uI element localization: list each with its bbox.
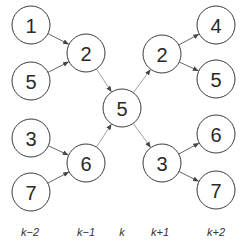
- nodes-group: 1537265234567: [12, 6, 235, 211]
- edge-d1-to-e1: [179, 34, 199, 45]
- column-label-k-minus-1: k−1: [77, 226, 95, 238]
- node-e4: 7: [197, 171, 235, 209]
- node-a4: 7: [12, 173, 50, 211]
- node-b2: 6: [67, 144, 105, 182]
- node-a2: 5: [12, 62, 50, 100]
- edge-c-to-d1: [133, 70, 150, 93]
- edge-a4-to-b2: [48, 172, 69, 183]
- node-label: 7: [210, 180, 221, 202]
- node-d1: 2: [143, 35, 181, 73]
- column-label-k-plus-1: k+1: [151, 226, 169, 238]
- edge-a1-to-b1: [48, 34, 69, 45]
- graph-svg: 1537265234567: [0, 0, 244, 244]
- node-label: 2: [80, 43, 91, 65]
- edge-c-to-d2: [133, 123, 150, 147]
- node-e1: 4: [197, 6, 235, 44]
- node-label: 5: [25, 71, 36, 93]
- node-label: 6: [210, 124, 221, 146]
- column-label-k: k: [119, 226, 125, 238]
- column-label-k-minus-2: k−2: [21, 226, 39, 238]
- edge-d2-to-e4: [179, 171, 199, 181]
- diagram-canvas: 1537265234567 k−2 k−1 k k+1 k+2: [0, 0, 244, 244]
- node-label: 5: [210, 69, 221, 91]
- node-a3: 3: [12, 119, 50, 157]
- node-b1: 2: [67, 34, 105, 72]
- edge-a3-to-b2: [48, 146, 68, 155]
- edge-d2-to-e3: [179, 143, 199, 154]
- node-label: 3: [156, 153, 167, 175]
- edge-a2-to-b1: [48, 62, 69, 73]
- node-a1: 1: [12, 6, 50, 44]
- node-label: 4: [210, 15, 221, 37]
- node-e2: 5: [197, 60, 235, 98]
- node-label: 1: [25, 15, 36, 37]
- node-label: 2: [156, 44, 167, 66]
- node-c: 5: [103, 89, 141, 127]
- node-e3: 6: [197, 115, 235, 153]
- edge-b1-to-c: [96, 69, 111, 92]
- node-label: 7: [25, 182, 36, 204]
- node-d2: 3: [143, 144, 181, 182]
- column-label-k-plus-2: k+2: [207, 226, 225, 238]
- edge-d1-to-e2: [179, 62, 198, 71]
- edge-b2-to-c: [96, 124, 111, 147]
- node-label: 3: [25, 128, 36, 150]
- node-label: 5: [116, 98, 127, 120]
- node-label: 6: [80, 153, 91, 175]
